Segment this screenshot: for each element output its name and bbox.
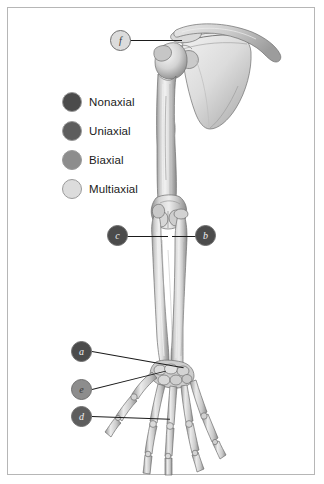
joint-classification-legend: Nonaxial Uniaxial Biaxial Multiaxial — [62, 90, 172, 206]
marker-d-label: d — [79, 411, 84, 422]
marker-a[interactable]: a — [71, 341, 92, 362]
marker-e[interactable]: e — [71, 379, 92, 400]
legend-swatch-biaxial — [62, 150, 82, 170]
legend-item-uniaxial: Uniaxial — [62, 119, 172, 143]
legend-label-biaxial: Biaxial — [89, 154, 124, 166]
leader-line-d — [92, 416, 170, 420]
legend-item-biaxial: Biaxial — [62, 148, 172, 172]
leader-line-a — [92, 351, 184, 368]
marker-b[interactable]: b — [195, 225, 216, 246]
upper-limb-skeleton-illustration — [0, 0, 324, 484]
legend-label-multiaxial: Multiaxial — [89, 183, 138, 195]
legend-label-nonaxial: Nonaxial — [89, 96, 135, 108]
legend-item-multiaxial: Multiaxial — [62, 177, 172, 201]
marker-e-label: e — [79, 384, 83, 395]
figure-canvas: Nonaxial Uniaxial Biaxial Multiaxial f c… — [0, 0, 324, 484]
legend-swatch-uniaxial — [62, 121, 82, 141]
marker-c-label: c — [115, 230, 119, 241]
figure-frame-border — [7, 7, 315, 475]
leader-line-e — [92, 371, 166, 390]
legend-swatch-multiaxial — [62, 179, 82, 199]
marker-f-label: f — [119, 35, 122, 46]
leader-line-c — [124, 236, 168, 237]
leader-line-f — [128, 40, 182, 41]
marker-f[interactable]: f — [110, 30, 131, 51]
marker-c[interactable]: c — [107, 225, 128, 246]
legend-swatch-nonaxial — [62, 92, 82, 112]
legend-item-nonaxial: Nonaxial — [62, 90, 172, 114]
marker-d[interactable]: d — [71, 406, 92, 427]
marker-b-label: b — [203, 230, 208, 241]
legend-label-uniaxial: Uniaxial — [89, 125, 131, 137]
marker-a-label: a — [79, 346, 84, 357]
